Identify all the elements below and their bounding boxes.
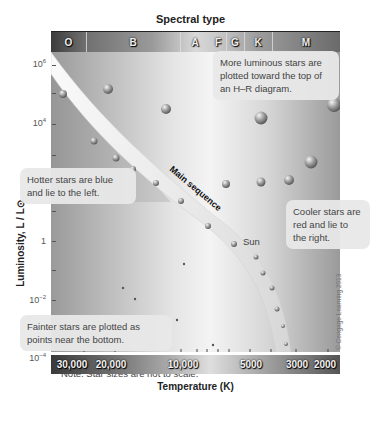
y-tick-mark <box>52 155 56 156</box>
copyright-text: © Cengage Learning 2013 <box>335 274 342 350</box>
star-marker <box>231 241 237 247</box>
spectral-class-o: O <box>51 32 86 53</box>
spectral-class-g: G <box>226 32 244 53</box>
y-tick-base: 10 <box>33 118 43 128</box>
star-marker <box>176 319 178 321</box>
star-marker <box>261 271 266 276</box>
star-marker <box>222 180 230 188</box>
star-marker <box>205 223 211 229</box>
spectral-class-f: F <box>210 32 226 53</box>
spectral-type-bar: O B A F G K M <box>51 31 340 53</box>
callout-luminous: More luminous stars are plotted toward t… <box>213 51 339 100</box>
y-tick-mark <box>52 241 56 242</box>
y-tick-mark <box>52 124 56 125</box>
star-marker <box>281 324 285 328</box>
callout-fainter: Fainter stars are plotted as points near… <box>20 315 172 351</box>
star-marker <box>284 342 288 346</box>
star-marker <box>178 198 184 204</box>
x-tick-2000: 2000 <box>314 355 336 374</box>
star-marker <box>254 255 259 260</box>
y-tick-base: 10 <box>29 295 39 305</box>
x-tick-20000: 20,000 <box>96 355 127 374</box>
temperature-bar: 30,000 20,000 10,000 5000 3000 2000 <box>51 355 340 374</box>
star-marker <box>327 98 340 112</box>
x-tick-5000: 5000 <box>240 355 262 374</box>
star-marker <box>212 344 214 346</box>
star-marker <box>113 155 120 162</box>
spectral-type-title: Spectral type <box>0 13 381 25</box>
spectral-class-a: A <box>180 32 210 53</box>
x-axis-label: Temperature (K) <box>51 381 340 392</box>
y-tick-mark <box>52 65 56 66</box>
star-marker <box>161 104 171 114</box>
star-marker <box>183 263 185 265</box>
sun-label: Sun <box>243 236 260 247</box>
callout-hotter: Hotter stars are blue and lie to the lef… <box>20 168 136 204</box>
star-marker <box>275 307 280 312</box>
x-tick-10000: 10,000 <box>168 355 199 374</box>
x-tick-30000: 30,000 <box>57 355 88 374</box>
y-tick-1e4: 104 <box>8 117 46 128</box>
y-tick-exp: 4 <box>43 117 46 123</box>
star-marker <box>59 90 67 98</box>
y-tick-mark <box>52 93 56 94</box>
y-tick-exp: −2 <box>39 294 46 300</box>
y-tick-1e6: 106 <box>8 58 46 69</box>
y-tick-mark <box>52 211 56 212</box>
spectral-class-k: K <box>244 32 272 53</box>
y-tick-exp: −4 <box>39 352 46 358</box>
y-tick-1e-4: 10−4 <box>8 352 46 363</box>
y-tick-mark <box>52 300 56 301</box>
y-tick-base: 10 <box>33 59 43 69</box>
star-marker <box>284 175 294 185</box>
star-marker <box>122 287 124 289</box>
star-marker <box>103 84 113 94</box>
star-marker <box>134 298 136 300</box>
star-marker <box>153 180 159 186</box>
star-marker <box>257 178 266 187</box>
x-tick-3000: 3000 <box>286 355 308 374</box>
y-tick-exp: 6 <box>43 58 46 64</box>
callout-cooler: Cooler stars are red and lie to the righ… <box>286 200 370 249</box>
star-marker <box>270 286 275 291</box>
y-tick-mark <box>52 270 56 271</box>
star-marker <box>305 156 318 169</box>
star-marker <box>91 138 98 145</box>
y-tick-base: 1 <box>41 236 46 246</box>
spectral-class-m: M <box>272 32 340 53</box>
star-marker <box>255 112 268 125</box>
spectral-class-b: B <box>86 32 180 53</box>
y-tick-base: 10 <box>29 353 39 363</box>
